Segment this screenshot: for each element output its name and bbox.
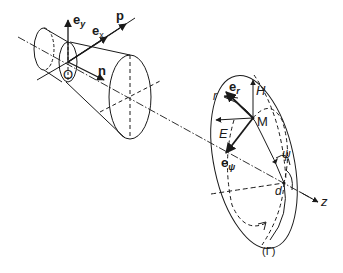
p-label: p [116,8,124,23]
diagram-canvas: ey ex p n O r er H [0,0,343,273]
origin-label: O [63,67,73,82]
n-label: n [98,63,106,78]
cone-top-edge [70,42,130,55]
equator-dashed [211,183,284,194]
cylinder-top-edge [44,28,68,42]
e-y-label: ey [73,12,86,29]
e-field-vector [216,118,253,120]
optical-axis [18,37,318,202]
point-m [252,117,255,120]
cylinder-bottom-edge [44,70,62,82]
r-label: r [213,89,218,103]
d-label: d [275,184,282,198]
e-r-label: er [229,79,240,96]
m-label: M [257,114,268,129]
surface-label: (Γ) [262,245,275,257]
z-label: z [320,194,328,209]
cylinder-back-dashed [44,28,54,70]
z-axis-arrow [300,192,318,202]
psi-label: ψ [282,147,291,161]
e-psi-label: eψ [221,155,235,172]
source-cylinder [34,28,162,139]
e-x-label: ex [92,23,104,40]
e-field-label: E [219,126,228,141]
psi-arc-arrowhead [272,158,278,164]
point-d [283,182,286,185]
h-label: H [256,83,266,98]
e-x-vector [68,37,107,62]
cone-bottom-edge [66,82,125,138]
